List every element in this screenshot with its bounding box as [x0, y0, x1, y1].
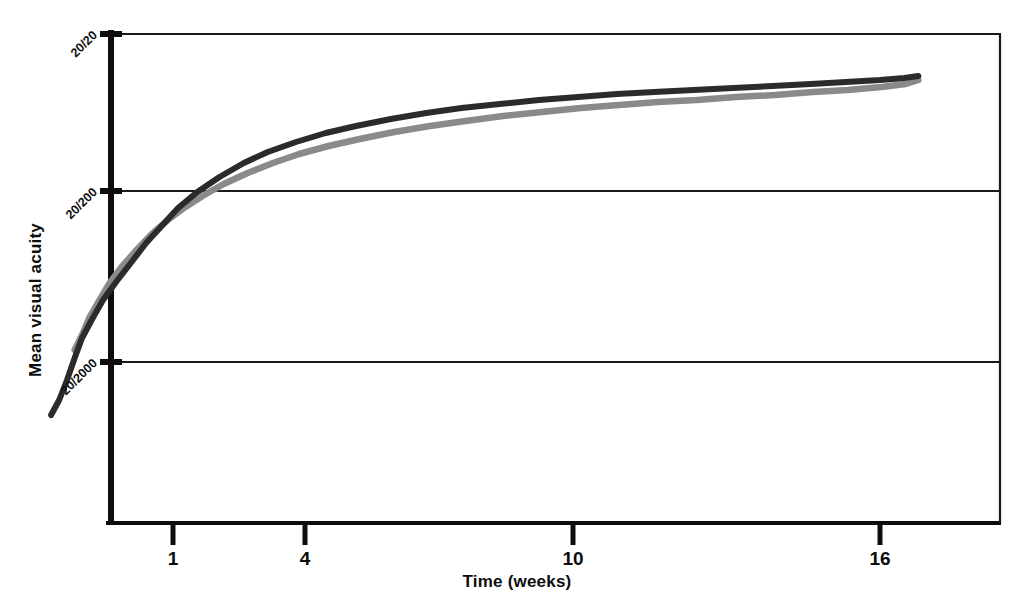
x-axis-title: Time (weeks)	[0, 572, 1034, 592]
x-tick-label-16: 16	[850, 548, 910, 570]
y-axis-title: Mean visual acuity	[26, 190, 46, 410]
x-tick-label-10: 10	[543, 548, 603, 570]
figure-container: Mean visual acuity 20/20 20/200 20/2000 …	[0, 0, 1034, 614]
plot-background	[110, 34, 1000, 523]
x-tick-label-1: 1	[143, 548, 203, 570]
x-tick-label-4: 4	[275, 548, 335, 570]
chart-plot	[0, 0, 1034, 614]
